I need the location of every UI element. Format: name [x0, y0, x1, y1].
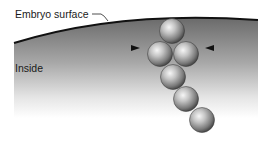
cell-sphere — [174, 42, 199, 67]
surface-leader-line — [92, 14, 108, 21]
label-embryo-surface: Embryo surface — [15, 9, 89, 20]
label-inside: Inside — [15, 63, 43, 74]
cell-sphere — [190, 108, 215, 133]
cell-sphere — [161, 65, 186, 90]
cell-sphere — [160, 19, 185, 44]
cell-sphere — [174, 87, 199, 112]
cell-sphere — [148, 42, 173, 67]
